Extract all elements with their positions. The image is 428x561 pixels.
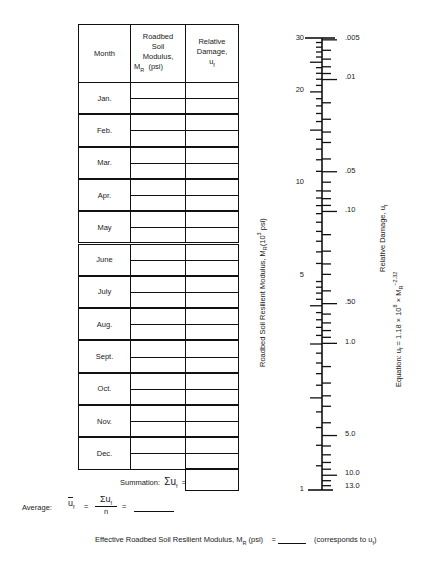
modulus-scale-label: 10 [296, 177, 304, 186]
modulus-scale-label: 1 [300, 484, 304, 493]
damage-equation: Equation: uf = 1.18 × 108 × MR−2.32 [392, 272, 404, 387]
left-axis-title: Roadbed Soil Resilient Modulus, MR(103 p… [256, 218, 268, 367]
damage-scale-label: .01 [345, 72, 355, 81]
damage-scale-label: 1.0 [345, 337, 355, 346]
modulus-scale-label: 5 [300, 270, 304, 279]
damage-scale-label: .50 [345, 297, 355, 306]
nomograph-scale [0, 0, 428, 561]
modulus-scale-label: 30 [296, 33, 304, 42]
damage-scale-label: .05 [345, 166, 355, 175]
damage-scale-label: .10 [345, 205, 355, 214]
damage-scale-label: .005 [345, 33, 360, 42]
damage-scale-label: 13.0 [345, 481, 360, 490]
modulus-scale-label: 20 [296, 85, 304, 94]
damage-scale-label: 5.0 [345, 429, 355, 438]
right-axis-title: Relative Damage, uf [378, 205, 389, 272]
damage-scale-label: 10.0 [345, 468, 360, 477]
